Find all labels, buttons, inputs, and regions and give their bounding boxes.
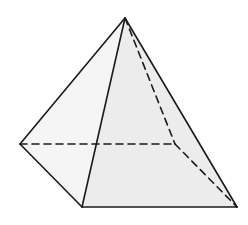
pyramid-diagram: [0, 0, 248, 225]
pyramid-svg: [0, 0, 248, 225]
